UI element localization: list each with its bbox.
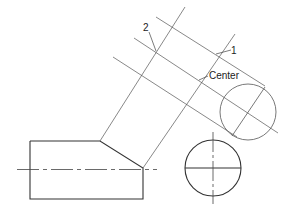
auxiliary-circle — [220, 84, 276, 140]
label-1: 1 — [231, 45, 237, 56]
inclined-projectors — [100, 7, 235, 168]
perpendicular-lines — [113, 17, 278, 137]
drawing-svg: 2 1 Center — [0, 0, 290, 211]
label-2: 2 — [143, 22, 149, 33]
technical-drawing: 2 1 Center — [0, 0, 290, 211]
label-center: Center — [209, 70, 240, 81]
front-view-outline — [30, 141, 143, 199]
